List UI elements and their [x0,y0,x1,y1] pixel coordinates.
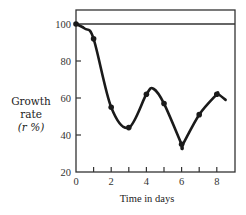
x-tick-label: 6 [179,176,184,187]
data-point [73,21,79,27]
data-points [73,21,219,147]
x-tick-label: 0 [73,176,78,187]
data-point [214,92,220,98]
x-tick-label: 4 [144,176,150,187]
y-tick-label: 100 [55,19,71,30]
x-tick-label: 8 [214,176,219,187]
y-tick-label: 80 [61,56,72,67]
x-tick-label: 2 [109,176,114,187]
data-point [161,101,167,107]
line-chart: 0246820406080100 Time in days [0,0,246,215]
data-point [91,36,97,42]
data-point [126,125,132,131]
y-tick-label: 60 [61,93,72,104]
growth-rate-curve [76,24,226,149]
y-tick-label: 40 [61,130,72,141]
tick-labels: 0246820406080100 [55,19,219,187]
axis-ticks [76,61,217,172]
data-point [108,104,114,110]
data-point [196,112,202,118]
data-point [179,141,185,147]
data-point [144,92,150,98]
y-tick-label: 20 [61,167,72,178]
x-axis-label: Time in days [120,193,174,204]
